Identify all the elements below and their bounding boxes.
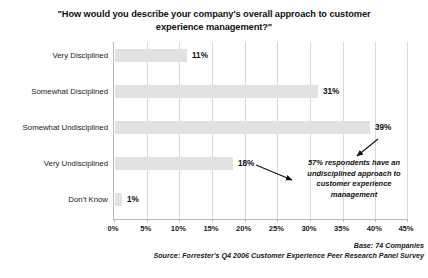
category-label-very-undisciplined: Very Undisciplined bbox=[0, 157, 108, 170]
category-label-somewhat-disciplined: Somewhat Disciplined bbox=[0, 85, 108, 98]
category-label-somewhat-undisciplined: Somewhat Undisciplined bbox=[0, 121, 108, 134]
xtick-label-40: 40% bbox=[367, 224, 382, 233]
bar-value-very-disciplined: 11% bbox=[192, 49, 208, 62]
xtick-label-10: 10% bbox=[171, 224, 186, 233]
xtick-label-35: 35% bbox=[334, 224, 349, 233]
xtick-label-45: 45% bbox=[398, 224, 413, 233]
chart-title: "How would you describe your company's o… bbox=[40, 8, 388, 33]
value-axis-labels: 0% 5% 10% 15% 20% 25% 30% 35% 40% 45% bbox=[113, 224, 407, 236]
bar-value-dont-know: 1% bbox=[127, 193, 139, 206]
bar-very-disciplined bbox=[115, 49, 187, 62]
tick-25 bbox=[277, 219, 278, 222]
chart-container: "How would you describe your company's o… bbox=[0, 0, 428, 278]
category-axis-labels: Very Disciplined Somewhat Disciplined So… bbox=[0, 42, 108, 220]
category-label-very-disciplined: Very Disciplined bbox=[0, 49, 108, 62]
callout-annotation: 57% respondents have an undisciplined ap… bbox=[288, 158, 420, 200]
bar-value-somewhat-undisciplined: 39% bbox=[375, 121, 391, 134]
tick-35 bbox=[343, 219, 344, 222]
footer-base: Base: 74 Companies bbox=[0, 241, 424, 251]
tick-40 bbox=[375, 219, 376, 222]
category-label-dont-know: Don't Know bbox=[0, 193, 108, 206]
tick-5 bbox=[147, 219, 148, 222]
tick-45 bbox=[407, 219, 408, 222]
xtick-label-15: 15% bbox=[203, 224, 218, 233]
xtick-label-25: 25% bbox=[269, 224, 284, 233]
chart-title-line-1: "How would you describe your company's o… bbox=[40, 8, 388, 21]
xtick-label-5: 5% bbox=[140, 224, 151, 233]
bar-somewhat-disciplined bbox=[115, 85, 318, 98]
tick-20 bbox=[245, 219, 246, 222]
callout-line-4: management bbox=[288, 190, 420, 201]
callout-line-3: customer experience bbox=[288, 179, 420, 190]
bar-value-somewhat-disciplined: 31% bbox=[323, 85, 339, 98]
bar-dont-know bbox=[115, 193, 122, 206]
tick-10 bbox=[179, 219, 180, 222]
footer-source: Source: Forrester's Q4 2006 Customer Exp… bbox=[0, 251, 424, 261]
xtick-label-30: 30% bbox=[301, 224, 316, 233]
callout-line-2: undisciplined approach to bbox=[288, 169, 420, 180]
tick-30 bbox=[310, 219, 311, 222]
xtick-label-0: 0% bbox=[108, 224, 119, 233]
callout-line-1: 57% respondents have an bbox=[288, 158, 420, 169]
bar-value-very-undisciplined: 18% bbox=[238, 157, 254, 170]
bar-very-undisciplined bbox=[115, 157, 233, 170]
tick-0 bbox=[114, 219, 115, 222]
tick-15 bbox=[212, 219, 213, 222]
chart-title-line-2: experience management?" bbox=[40, 21, 388, 34]
bar-somewhat-undisciplined bbox=[115, 121, 370, 134]
xtick-label-20: 20% bbox=[236, 224, 251, 233]
